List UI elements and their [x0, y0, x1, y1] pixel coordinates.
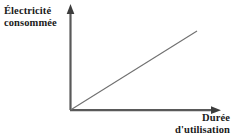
x-axis-label-line1: Durée — [175, 112, 230, 124]
electricity-consumption-chart: Électricité consommée Durée d'utilisatio… — [0, 0, 233, 139]
y-axis-label: Électricité consommée — [4, 5, 57, 29]
y-axis-arrowhead — [67, 4, 75, 14]
y-axis-label-line2: consommée — [4, 17, 57, 29]
x-axis-label: Durée d'utilisation — [175, 112, 230, 136]
data-line-proportional — [71, 31, 198, 110]
y-axis-label-line1: Électricité — [4, 5, 57, 17]
x-axis-label-line2: d'utilisation — [175, 124, 230, 136]
